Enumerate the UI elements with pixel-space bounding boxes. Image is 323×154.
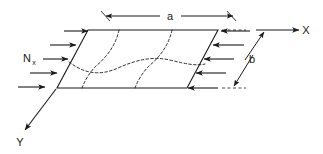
axis-y (25, 89, 56, 130)
label-load-nx-subscript: x (32, 59, 36, 66)
label-axis-x: X (302, 24, 310, 36)
label-dimension-b: b (249, 53, 255, 65)
buckling-mode-curves (69, 30, 205, 88)
nodal-line-1 (82, 30, 119, 88)
label-load-nx: N (23, 52, 31, 64)
load-arrows-right (188, 31, 250, 88)
axis-y-line (25, 89, 56, 130)
deflection-wave (69, 58, 205, 72)
plate-buckling-diagram: a b N x X Y (0, 0, 323, 154)
label-dimension-a: a (167, 10, 174, 22)
plate-outline (57, 30, 218, 88)
figure-canvas: a b N x X Y (0, 0, 323, 154)
label-axis-y: Y (16, 136, 24, 148)
